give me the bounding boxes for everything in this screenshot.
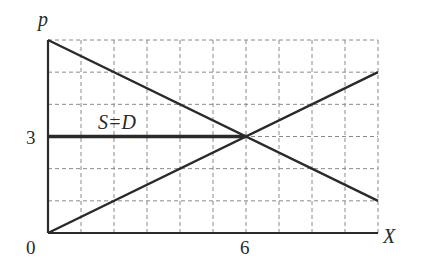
chart-canvas: p X 0 6 3 S=D bbox=[0, 0, 426, 271]
x-tick-6-label: 6 bbox=[240, 237, 250, 258]
sd-annotation: S=D bbox=[98, 111, 136, 133]
y-tick-3-label: 3 bbox=[26, 127, 36, 148]
x-axis-label: X bbox=[382, 225, 396, 247]
origin-label: 0 bbox=[26, 237, 36, 258]
y-axis-label: p bbox=[36, 8, 48, 31]
